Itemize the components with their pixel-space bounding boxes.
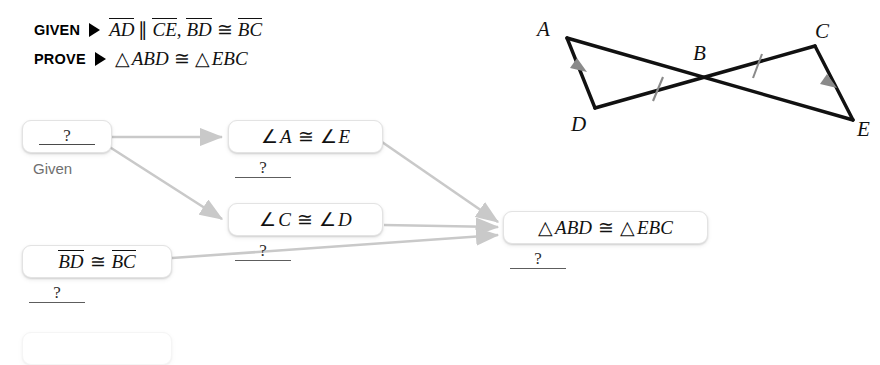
bd-bc-reason[interactable]: ? — [26, 285, 88, 303]
congruent-symbol: ≅ — [291, 209, 319, 230]
triangle-symbol-icon: △ — [538, 217, 553, 238]
congruent-symbol: ≅ — [592, 217, 620, 238]
angle-c-d-statement: ∠C≅∠D — [259, 208, 351, 231]
segment-ad-line — [567, 38, 595, 108]
conclusion-box[interactable]: △ABD≅△EBC — [503, 211, 708, 244]
angle-c-d-reason[interactable]: ? — [232, 243, 294, 261]
line-ae — [567, 38, 853, 120]
angle-symbol-icon: ∠ — [259, 209, 276, 230]
vertex-c: C — [276, 209, 291, 230]
given-box-reason: Given — [33, 160, 72, 177]
congruent-symbol: ≅ — [84, 251, 112, 272]
angle-c-d-box[interactable]: ∠C≅∠D — [228, 203, 383, 236]
vertex-a: A — [278, 126, 292, 147]
vertex-e: E — [337, 126, 351, 147]
arrow-angle-ae-to-conclusion — [382, 142, 498, 222]
answer-rule — [29, 302, 85, 303]
triangle-abd: ABD — [553, 217, 592, 238]
vertex-label-d: D — [570, 112, 586, 136]
vertex-label-b: B — [693, 41, 706, 65]
angle-symbol-icon: ∠ — [319, 209, 336, 230]
answer-rule — [39, 144, 95, 145]
triangle-ebc: EBC — [635, 217, 673, 238]
segment-bc: BC — [112, 251, 136, 273]
question-mark: ? — [259, 243, 267, 258]
conclusion-reason[interactable]: ? — [507, 251, 569, 269]
question-mark: ? — [534, 251, 542, 266]
angle-symbol-icon: ∠ — [320, 126, 337, 147]
geometry-figure: A B C D E — [505, 8, 880, 143]
arrow-given-to-angle-cd — [108, 146, 222, 219]
segment-bd: BD — [58, 251, 83, 273]
given-box[interactable]: ? — [22, 120, 112, 153]
angle-symbol-icon: ∠ — [261, 126, 278, 147]
arrow-angle-cd-to-conclusion — [384, 225, 498, 227]
given-box-unknown: ? — [39, 128, 95, 145]
parallel-arrow-ad-icon — [570, 58, 587, 72]
angle-a-e-statement: ∠A≅∠E — [261, 125, 350, 148]
tick-mark-bc — [753, 54, 762, 78]
bd-bc-statement: BD≅BC — [58, 250, 136, 273]
triangle-symbol-icon: △ — [620, 217, 635, 238]
arrow-bd-bc-to-conclusion — [172, 235, 498, 258]
answer-rule — [235, 260, 291, 261]
vertex-label-c: C — [815, 19, 830, 43]
angle-a-e-reason[interactable]: ? — [232, 160, 294, 178]
question-mark: ? — [63, 128, 71, 143]
bd-bc-box[interactable]: BD≅BC — [22, 245, 172, 278]
vertex-label-a: A — [535, 17, 550, 41]
conclusion-statement: △ABD≅△EBC — [538, 216, 673, 239]
congruent-symbol: ≅ — [292, 126, 320, 147]
vertex-label-e: E — [856, 117, 870, 141]
angle-a-e-box[interactable]: ∠A≅∠E — [228, 120, 383, 153]
cutoff-box — [22, 332, 172, 365]
question-mark: ? — [53, 285, 61, 300]
vertex-d: D — [336, 209, 352, 230]
answer-rule — [510, 268, 566, 269]
question-mark: ? — [259, 160, 267, 175]
answer-rule — [235, 177, 291, 178]
